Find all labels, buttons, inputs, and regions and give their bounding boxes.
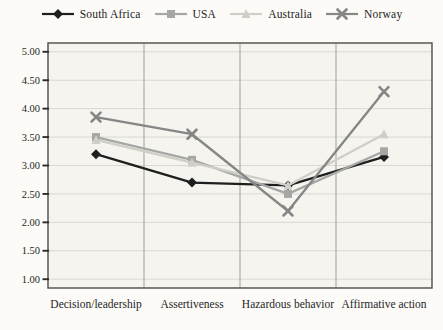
legend-label-norway: Norway [364,8,402,20]
y-tick-label: 1.50 [22,245,40,256]
x-category-label: Assertiveness [160,298,224,310]
line-chart-plot: 5.004.504.003.503.002.502.001.501.00Deci… [0,0,443,330]
legend-item-south-africa: South Africa [41,7,141,21]
usa-square-swatch-icon [154,7,188,21]
y-tick-label: 3.50 [22,132,40,143]
y-tick-label: 2.50 [22,189,40,200]
y-tick-label: 3.00 [22,160,40,171]
legend-label-australia: Australia [268,8,312,20]
chart-figure: South Africa USA Australia Norway 5.004.… [0,0,443,330]
y-tick-label: 2.00 [22,217,40,228]
legend-label-usa: USA [193,8,217,20]
legend-label-south-africa: South Africa [80,8,141,20]
x-category-label: Affirmative action [341,298,426,310]
south-africa-diamond-swatch-icon [41,7,75,21]
y-tick-label: 4.00 [22,103,40,114]
y-tick-label: 1.00 [22,274,40,285]
legend-item-australia: Australia [229,7,312,21]
legend-item-norway: Norway [325,7,402,21]
y-tick-label: 5.00 [22,46,40,57]
norway-x-swatch-icon [325,7,359,21]
x-category-label: Decision/leadership [50,298,142,311]
legend-item-usa: USA [154,7,217,21]
y-tick-label: 4.50 [22,75,40,86]
australia-triangle-swatch-icon [229,7,263,21]
x-category-label: Hazardous behavior [242,298,334,310]
chart-legend: South Africa USA Australia Norway [0,7,443,21]
